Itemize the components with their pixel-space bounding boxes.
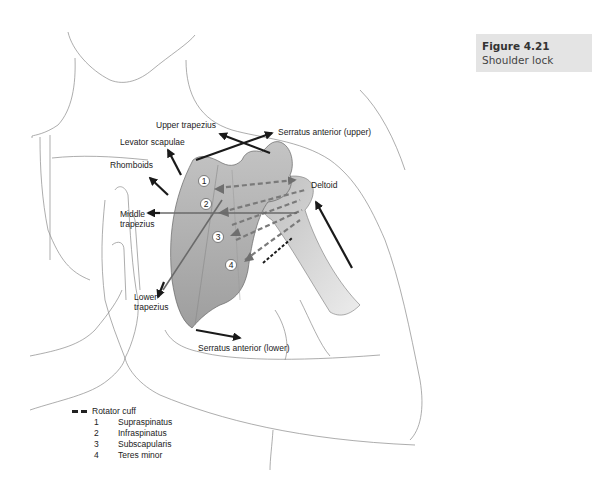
serratus-anterior-lower-arrow xyxy=(196,330,240,338)
label-serratus-anterior-upper: Serratus anterior (upper) xyxy=(278,127,371,137)
label-middle-trapezius-2: trapezius xyxy=(120,219,155,229)
rhomboids-arrow xyxy=(150,178,168,195)
svg-text:1: 1 xyxy=(202,176,207,186)
label-lower-trapezius-1: Lower xyxy=(134,292,157,302)
marker-3: 3 xyxy=(213,232,224,243)
label-levator-scapulae: Levator scapulae xyxy=(120,137,185,147)
label-lower-trapezius-2: trapezius xyxy=(134,302,169,312)
marker-2: 2 xyxy=(201,199,212,210)
dashed-line-icon xyxy=(72,406,92,417)
legend: Rotator cuff 1 Supraspinatus 2 Infraspin… xyxy=(72,406,172,461)
svg-text:2: 2 xyxy=(204,199,209,209)
legend-title-row: Rotator cuff xyxy=(72,406,172,417)
marker-4: 4 xyxy=(226,260,237,271)
marker-1: 1 xyxy=(199,176,210,187)
svg-text:3: 3 xyxy=(216,232,221,242)
legend-title: Rotator cuff xyxy=(92,406,136,417)
levator-scapulae-arrow xyxy=(168,150,181,175)
svg-text:4: 4 xyxy=(229,260,234,270)
legend-item: 4 Teres minor xyxy=(72,450,172,461)
label-deltoid: Deltoid xyxy=(311,180,338,190)
label-rhomboids: Rhomboids xyxy=(110,160,153,170)
legend-item: 3 Subscapularis xyxy=(72,439,172,450)
label-serratus-anterior-lower: Serratus anterior (lower) xyxy=(198,343,290,353)
teres-minor-line xyxy=(263,238,292,263)
label-upper-trapezius: Upper trapezius xyxy=(156,120,216,130)
legend-item: 2 Infraspinatus xyxy=(72,428,172,439)
label-middle-trapezius-1: Middle xyxy=(120,209,145,219)
legend-item: 1 Supraspinatus xyxy=(72,417,172,428)
